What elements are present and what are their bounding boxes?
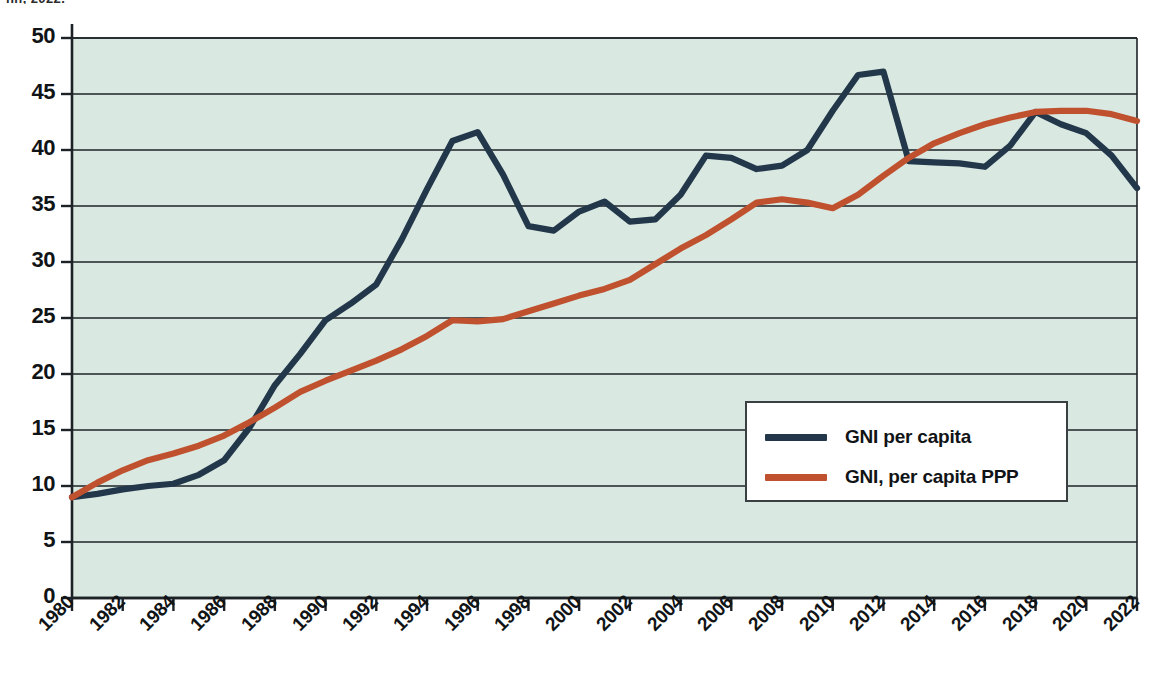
y-axis-tick-label: 20	[9, 359, 55, 385]
y-axis-tick-label: 40	[9, 135, 55, 161]
y-axis-tick-label: 5	[9, 527, 55, 553]
y-axis-tick-label: 25	[9, 303, 55, 329]
legend-swatch-line-icon	[765, 434, 827, 441]
chart-figure: nn, 2022. 05101520253035404550 198019821…	[0, 0, 1153, 686]
y-axis-tick-label: 30	[9, 247, 55, 273]
y-axis-tick-label: 50	[9, 23, 55, 49]
y-axis-tick-label: 15	[9, 415, 55, 441]
line-chart-canvas	[0, 0, 1153, 686]
legend-swatch-line-icon	[765, 474, 827, 481]
legend-entry-label: GNI, per capita PPP	[845, 466, 1019, 488]
y-axis-tick-label: 10	[9, 471, 55, 497]
legend-entry-label: GNI per capita	[845, 426, 971, 448]
legend-entry-gni-per-capita: GNI per capita	[747, 420, 1066, 454]
y-axis-tick-label: 45	[9, 79, 55, 105]
chart-legend: GNI per capita GNI, per capita PPP	[745, 401, 1068, 502]
y-axis-tick-label: 35	[9, 191, 55, 217]
legend-entry-gni-per-capita-ppp: GNI, per capita PPP	[747, 460, 1066, 494]
